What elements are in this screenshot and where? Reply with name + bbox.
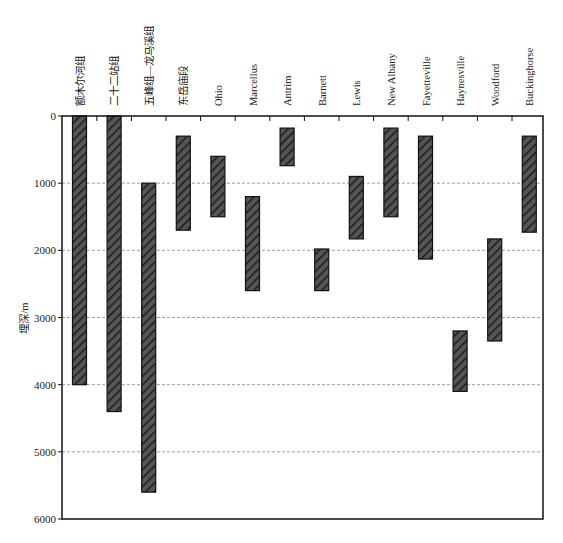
y-tick-label-0: 0	[51, 110, 57, 122]
y-tick-label-5000: 5000	[34, 446, 57, 458]
category-label: 额木尔河组	[74, 55, 86, 106]
category-label: Barnett	[317, 75, 328, 106]
bar-5	[246, 197, 260, 291]
axes	[58, 116, 543, 519]
bar-8	[349, 176, 363, 238]
bar-10	[419, 136, 433, 259]
bar-13	[522, 136, 536, 232]
bar-12	[488, 239, 502, 341]
category-label: New Albany	[386, 52, 397, 106]
category-label: 二十二站组	[108, 55, 120, 106]
bar-9	[384, 128, 398, 217]
bar-3	[176, 136, 190, 230]
y-axis-tick-labels: 0100020003000400050006000	[34, 110, 57, 525]
depth-range-chart: 0100020003000400050006000 额木尔河组二十二站组五峰组—…	[0, 0, 563, 543]
bar-2	[142, 183, 156, 492]
category-label: Ohio	[213, 85, 224, 106]
y-tick-label-6000: 6000	[34, 513, 57, 525]
category-label: Buckinghorse	[524, 47, 535, 106]
bar-11	[453, 331, 467, 391]
category-label: Fayetteville	[421, 56, 432, 106]
bar-0	[73, 116, 87, 385]
bars-group	[73, 116, 537, 492]
y-tick-label-4000: 4000	[34, 379, 57, 391]
category-label: 东岳庙段	[177, 65, 189, 106]
y-tick-label-2000: 2000	[34, 244, 57, 256]
category-label: Marcellus	[248, 64, 259, 106]
category-labels: 额木尔河组二十二站组五峰组—龙马溪组东岳庙段OhioMarcellusAntri…	[74, 25, 536, 107]
y-axis-label: 埋深/m	[19, 302, 30, 333]
category-label: Haynesville	[455, 56, 466, 106]
y-tick-label-3000: 3000	[34, 312, 57, 324]
category-label: Lewis	[351, 80, 362, 106]
bar-6	[280, 128, 294, 166]
category-label: Woodford	[490, 63, 501, 106]
bar-4	[211, 156, 225, 216]
gridlines	[62, 183, 543, 452]
bar-1	[107, 116, 121, 412]
category-label: 五峰组—龙马溪组	[143, 25, 155, 107]
bar-7	[315, 249, 329, 291]
y-tick-label-1000: 1000	[34, 177, 57, 189]
category-label: Antrim	[282, 76, 293, 106]
